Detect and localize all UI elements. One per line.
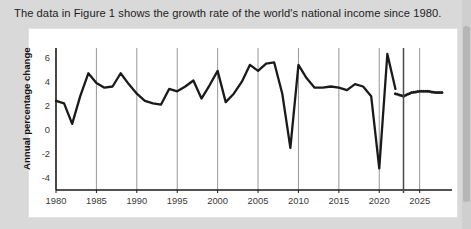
scrollbar-track[interactable] — [462, 0, 471, 229]
y-tick-labels: 6420-2-4 — [42, 52, 50, 183]
y-tick-label: 4 — [45, 76, 50, 87]
y-tick-label: 0 — [45, 124, 50, 135]
projection-dot — [440, 91, 443, 94]
line-chart-svg: 6420-2-4 1980198519901995200020052010201… — [0, 0, 471, 229]
x-tick-label: 2010 — [288, 195, 309, 206]
y-tick-label: -4 — [42, 172, 50, 183]
chart-gridlines — [96, 48, 419, 190]
x-tick-labels: 1980198519901995200020052010201520202025 — [46, 195, 431, 206]
figure-page: The data in Figure 1 shows the growth ra… — [0, 0, 471, 229]
x-tick-label: 1985 — [86, 195, 107, 206]
x-tick-label: 1990 — [126, 195, 147, 206]
series-line-projection — [394, 90, 443, 98]
x-tick-label: 2020 — [369, 195, 390, 206]
x-tick-label: 1995 — [167, 195, 188, 206]
chart-axes — [56, 48, 452, 190]
scrollbar-thumb[interactable] — [463, 26, 470, 202]
x-tick-label: 2025 — [409, 195, 430, 206]
x-tick-label: 2005 — [248, 195, 269, 206]
y-axis-title: Annual percentage change — [21, 47, 32, 170]
series-line-actual — [56, 54, 395, 168]
x-tick-label: 2000 — [207, 195, 228, 206]
x-tick-label: 2015 — [328, 195, 349, 206]
x-tick-label: 1980 — [46, 195, 67, 206]
chart-container: 6420-2-4 1980198519901995200020052010201… — [0, 0, 471, 229]
y-tick-label: 2 — [45, 100, 50, 111]
y-tick-label: -2 — [42, 148, 50, 159]
y-tick-label: 6 — [45, 52, 50, 63]
